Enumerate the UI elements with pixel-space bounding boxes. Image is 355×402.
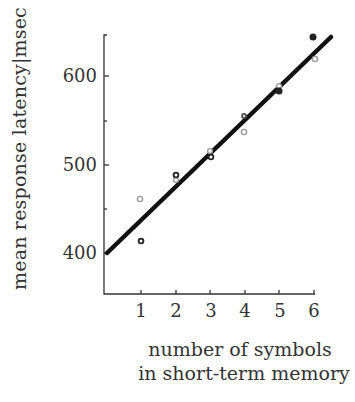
- x-tick-label-1: 1: [131, 300, 151, 321]
- y-tick-label-400: 400: [57, 242, 97, 263]
- y-tick-label-600: 600: [57, 65, 97, 86]
- x-axis-label-line2: in short-term memory: [126, 362, 355, 384]
- x-tick-label-6: 6: [304, 300, 324, 321]
- axes: [104, 35, 315, 294]
- x-axis-label-line1: number of symbols: [130, 338, 350, 360]
- x-tick-label-4: 4: [235, 300, 255, 321]
- x-tick-label-3: 3: [201, 300, 221, 321]
- y-axis-label: mean response latency|msec: [8, 10, 34, 290]
- y-tick-label-500: 500: [57, 154, 97, 175]
- x-tick-label-5: 5: [270, 300, 290, 321]
- x-tick-label-2: 2: [166, 300, 186, 321]
- fit-line: [107, 37, 331, 253]
